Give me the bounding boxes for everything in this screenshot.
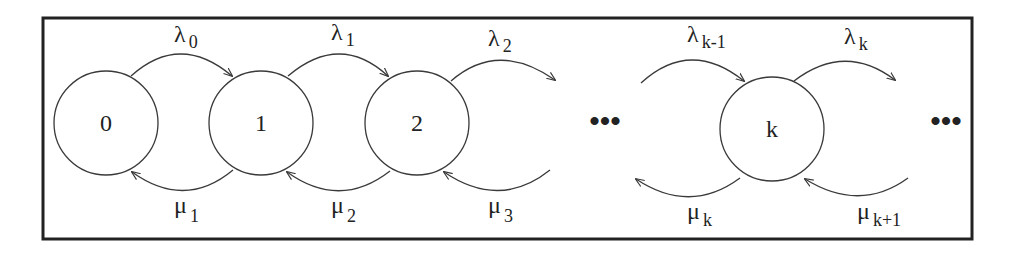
arc-mu-k [636, 178, 740, 197]
state-label: k [766, 116, 778, 142]
arc-lambda-k-1 [641, 60, 744, 83]
arc-mu-2 [287, 171, 390, 191]
arc-lambda-1 [288, 54, 388, 76]
arc-mu-3 [444, 170, 550, 191]
label-lambda-0: λ0 [174, 21, 198, 52]
arc-lambda-k [794, 61, 895, 81]
state-label: 2 [411, 110, 423, 136]
state-0: 0 [54, 71, 158, 175]
state-label: 1 [255, 110, 267, 136]
arc-mu-1 [132, 170, 233, 191]
label-lambda-1: λ1 [331, 19, 355, 50]
label-mu-k+1: μk+1 [857, 198, 901, 230]
arc-mu-k+1 [805, 178, 908, 196]
state-k: k [720, 77, 824, 181]
state-label: 0 [100, 110, 112, 136]
label-mu-1: μ1 [174, 192, 199, 226]
label-mu-2: μ2 [331, 192, 356, 226]
state-1: 1 [209, 71, 313, 175]
label-lambda-2: λ2 [488, 25, 512, 56]
label-lambda-k: λk [844, 23, 868, 54]
arc-lambda-0 [131, 54, 232, 76]
label-lambda-k-1: λk-1 [687, 21, 726, 52]
label-mu-3: μ3 [488, 192, 513, 226]
ellipsis-right: ••• [930, 104, 962, 137]
label-mu-k: μk [687, 198, 712, 230]
arc-lambda-2 [451, 60, 555, 81]
ellipsis-middle: ••• [589, 104, 621, 137]
state-2: 2 [365, 71, 469, 175]
birth-death-diagram: 0 1 2 k ••• ••• λ0 λ1 λ2 λk-1 λk μ1 μ2 μ… [0, 0, 1016, 255]
